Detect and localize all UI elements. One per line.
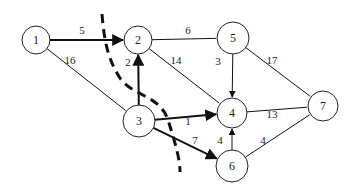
edge-1-3 (47, 49, 126, 111)
node-7: 7 (308, 91, 338, 121)
edge-weight-label: 13 (267, 108, 279, 120)
edge-weight-label: 5 (79, 24, 85, 36)
node-2: 2 (124, 26, 152, 54)
edge-5-4 (232, 54, 233, 97)
node-6: 6 (216, 150, 248, 182)
edge-weight-label: 6 (185, 24, 191, 36)
node-label: 5 (230, 31, 236, 45)
edge-weight-label: 4 (217, 134, 223, 146)
node-1: 1 (22, 26, 50, 54)
edge-weight-label: 4 (260, 134, 266, 146)
edge-2-5 (152, 38, 216, 39)
edge-6-7 (245, 115, 309, 157)
node-label: 2 (135, 33, 141, 47)
node-label: 4 (229, 106, 235, 120)
network-diagram: 1253476 5162614317171344 (0, 0, 355, 194)
node-label: 3 (136, 114, 142, 128)
node-3: 3 (123, 105, 155, 137)
edge-5-7 (246, 48, 310, 97)
node-4: 4 (217, 98, 247, 128)
edge-weight-label: 16 (65, 54, 77, 66)
edge-3-2 (138, 55, 139, 105)
edge-weight-label: 2 (125, 56, 131, 68)
edge-2-4 (149, 49, 219, 104)
edge-weight-label: 1 (185, 115, 191, 127)
edge-weight-label: 7 (192, 134, 198, 146)
node-5: 5 (217, 22, 249, 54)
edge-3-6 (153, 128, 216, 159)
node-label: 1 (33, 33, 39, 47)
graph-svg: 1253476 5162614317171344 (0, 0, 355, 194)
node-label: 7 (320, 99, 326, 113)
edge-weight-label: 17 (267, 54, 279, 66)
edge-weight-label: 3 (215, 55, 221, 67)
node-label: 6 (229, 159, 235, 173)
edge-weight-label: 14 (171, 54, 183, 66)
